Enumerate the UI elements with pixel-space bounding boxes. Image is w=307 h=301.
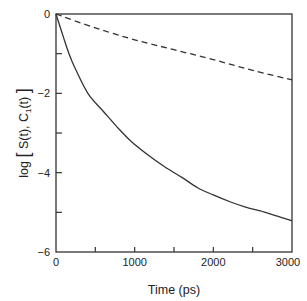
- y-axis-label-bracket-open: [: [13, 153, 33, 158]
- y-axis-label-prefix: log: [17, 161, 31, 178]
- x-tick-label: 3000: [276, 256, 300, 268]
- series-s-solid-line: [56, 14, 292, 221]
- x-tick-label: 0: [53, 256, 59, 268]
- chart: 0100020003000 0−2−4−6 Time (ps) log [ S(…: [0, 0, 307, 301]
- y-tick-label: −2: [37, 87, 50, 99]
- y-axis-ticks: 0−2−4−6: [37, 8, 62, 258]
- x-axis-label: Time (ps): [148, 283, 200, 297]
- x-axis-ticks: 0100020003000: [53, 247, 300, 268]
- y-axis-label-bracket-close: ]: [13, 88, 33, 93]
- plot-series: [56, 14, 292, 221]
- y-axis-label-main: S(t), C: [17, 113, 31, 149]
- y-axis-label-suffix: (t): [17, 97, 31, 109]
- y-axis-label: log [ S(t), C1(t) ]: [13, 88, 33, 178]
- y-tick-label: −4: [37, 167, 50, 179]
- x-tick-label: 2000: [201, 256, 225, 268]
- y-tick-label: −6: [37, 246, 50, 258]
- x-tick-label: 1000: [122, 256, 146, 268]
- y-tick-label: 0: [44, 8, 50, 20]
- series-c1-dashed-line: [56, 14, 292, 80]
